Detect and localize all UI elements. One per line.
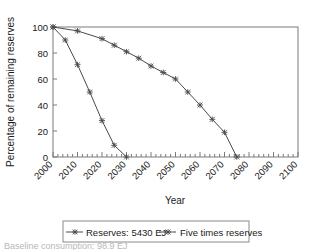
data-point-marker — [50, 24, 56, 30]
data-point-marker — [160, 70, 166, 76]
data-point-marker — [136, 55, 142, 61]
y-tick-label: 80 — [37, 48, 48, 59]
data-point-marker — [148, 63, 154, 69]
data-point-marker — [124, 49, 130, 55]
data-point-marker — [209, 117, 215, 123]
data-point-marker — [75, 62, 81, 68]
data-point-marker — [72, 229, 78, 235]
y-tick-labels: 100 80 60 40 20 0 — [32, 22, 48, 163]
data-point-marker — [111, 143, 117, 149]
x-tick-label: 2080 — [228, 159, 251, 182]
chart-canvas: 100 80 60 40 20 0 Percentage of remainin… — [0, 0, 309, 250]
y-tick-label: 60 — [37, 74, 48, 85]
x-tick-label: 2090 — [252, 159, 275, 182]
y-tick-label: 100 — [32, 22, 48, 33]
y-axis-title: Percentage of remaining reserves — [5, 17, 16, 167]
data-point-marker — [173, 76, 179, 82]
chart-legend: Reserves: 5430 EJFive times reserves — [63, 221, 263, 242]
data-series — [50, 24, 240, 160]
data-point-marker — [197, 102, 203, 108]
x-tick-label: 2050 — [154, 159, 177, 182]
data-series-layer — [50, 24, 240, 160]
data-point-marker — [222, 130, 228, 136]
data-point-marker — [62, 37, 68, 43]
y-tick-label: 40 — [37, 100, 48, 111]
data-point-marker — [111, 42, 117, 48]
x-axis-title: Year — [165, 195, 186, 206]
x-tick-labels: 2000201020202030204020502060207020802090… — [32, 159, 300, 182]
x-tick-label: 2060 — [179, 159, 202, 182]
x-tick-label: 2070 — [203, 159, 226, 182]
legend-items: Reserves: 5430 EJFive times reserves — [66, 227, 263, 238]
legend-label: Five times reserves — [180, 227, 263, 238]
data-point-marker — [165, 229, 171, 235]
data-point-marker — [87, 89, 93, 95]
data-point-marker — [99, 118, 105, 124]
x-tick-label: 2040 — [130, 159, 153, 182]
legend-label: Reserves: 5430 EJ — [86, 227, 167, 238]
data-point-marker — [75, 28, 81, 34]
data-point-marker — [234, 154, 240, 160]
x-tick-label: 2030 — [105, 159, 128, 182]
data-point-marker — [99, 36, 105, 42]
x-tick-label: 2100 — [277, 159, 300, 182]
x-tick-label: 2020 — [81, 159, 104, 182]
chart-figure: 100 80 60 40 20 0 Percentage of remainin… — [0, 0, 309, 250]
y-axis-ticks — [53, 27, 57, 157]
x-tick-label: 2010 — [56, 159, 79, 182]
data-point-marker — [185, 89, 191, 95]
figure-caption: Baseline consumption: 98.9 EJ — [4, 241, 128, 250]
x-tick-label: 2000 — [32, 159, 55, 182]
data-point-marker — [124, 154, 130, 160]
y-tick-label: 20 — [37, 126, 48, 137]
x-axis-ticks — [53, 152, 298, 157]
series-line — [53, 27, 237, 157]
data-series — [50, 24, 130, 160]
